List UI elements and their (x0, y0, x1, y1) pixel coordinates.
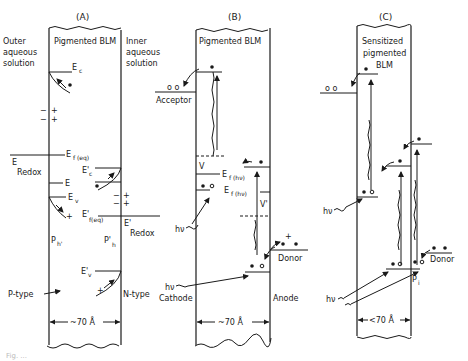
plus-charge: + (51, 115, 58, 124)
n-type-label: N-type (123, 290, 150, 299)
e-mid-label: E (65, 179, 70, 188)
donor-dot (432, 246, 436, 250)
electron-hop-arrow (404, 141, 414, 149)
arrowhead (264, 320, 269, 325)
plus-charge: + (51, 106, 58, 115)
membrane-title: Pigmented BLM (199, 37, 261, 46)
panel-a-label: (A) (76, 12, 89, 22)
donor-label: Donor (430, 255, 455, 264)
photon-wave (334, 207, 346, 211)
electron-dot (250, 264, 254, 268)
hole-plus: + (97, 286, 104, 295)
membrane-title: Pigmented BLM (54, 37, 116, 46)
ev-label: E (68, 193, 73, 202)
hole-circle (260, 264, 264, 268)
e-redox-prime-label: E' (124, 219, 131, 228)
donor-transfer-arrow (422, 250, 430, 258)
electron-dot (398, 159, 402, 163)
e-redox-prime-sub: Redox (130, 229, 155, 238)
hole-arrow-right (104, 280, 114, 288)
ev-sub: v (75, 197, 79, 204)
electron-dot (210, 65, 214, 69)
ef-hv-sub: f (hν) (229, 174, 245, 181)
light-label: hν (326, 295, 336, 304)
anode-label: Anode (273, 294, 299, 303)
v-prime-label: V' (260, 200, 268, 209)
ef-eq-sub: f (eq) (73, 154, 89, 162)
valence-bend (49, 197, 66, 218)
ev-prime-sub: v (88, 271, 92, 278)
arrowhead (358, 318, 363, 323)
light-label: hν (175, 225, 185, 234)
donor-label: Donor (278, 254, 303, 263)
arrowhead (50, 320, 55, 325)
donor-plus: + (285, 232, 292, 241)
ph-label: P (51, 236, 56, 245)
wavy-top (196, 29, 268, 32)
ef-hv-label: E (224, 186, 229, 195)
ph-prime-label: P' (104, 236, 111, 245)
ef-eq-label: E (66, 150, 71, 159)
light-label: hν (165, 283, 175, 292)
figure-caption: Fig. ... (6, 352, 27, 360)
donor-dot (281, 242, 285, 246)
wavy-top (49, 27, 121, 30)
acceptor-holes: o o (167, 83, 179, 92)
panel-b: (B) Pigmented BLM o o Acceptor V E f (hν… (155, 12, 308, 347)
thickness-label: ~70 Å (218, 316, 243, 327)
cathode-label: Cathode (159, 294, 193, 303)
thickness-label: <70 Å (369, 314, 394, 325)
photon-wave (338, 298, 344, 300)
outer-solution-line3: solution (3, 59, 35, 68)
outer-solution-line2: aqueous (3, 48, 37, 57)
arrowhead (405, 318, 410, 323)
panel-b-label: (B) (228, 12, 241, 22)
wavy-bottom (357, 336, 411, 339)
inner-solution-line3: solution (126, 59, 158, 68)
wavy-relaxation (398, 190, 400, 250)
wavy-top (357, 25, 411, 28)
band-bend (49, 72, 70, 93)
donor-dot (443, 246, 447, 250)
acceptor-holes: o o (325, 84, 337, 93)
pi-label: P (412, 275, 417, 284)
wavy-relaxation (414, 180, 416, 240)
hole-circle (420, 260, 424, 264)
minus-charge: − (40, 115, 47, 124)
thickness-label: ~70 Å (70, 316, 95, 327)
photon-wave (345, 304, 351, 306)
membrane-title-line2: pigmented (363, 49, 406, 58)
outer-solution-line1: Outer (3, 37, 26, 46)
ef-hv-label: E (222, 170, 227, 179)
ec-sub: c (79, 67, 82, 74)
band-bend-right (98, 168, 121, 190)
panel-c-label: (C) (379, 12, 392, 22)
electron-dot (391, 262, 395, 266)
electron-dot (201, 184, 205, 188)
ec-label: E (72, 63, 77, 72)
ec-prime-sub: c (89, 170, 92, 177)
photon-arrow (188, 276, 248, 286)
electron-transfer-arrow (352, 73, 360, 86)
electron-dot (417, 137, 421, 141)
donor-dot (294, 242, 298, 246)
wavy-relaxation (254, 220, 256, 250)
photon-arrow (346, 199, 362, 207)
minus-charge: − (113, 199, 120, 208)
wavy-relaxation (212, 72, 214, 156)
e-redox-sub: Redox (17, 168, 42, 177)
electron-dot (95, 184, 99, 188)
membrane-title-line3: BLM (376, 61, 393, 70)
ef-hv-sub: f (hν) (231, 190, 247, 197)
arrowhead (197, 320, 202, 325)
electron-arrow (57, 79, 66, 88)
panel-a: (A) Pigmented BLM Outer aqueous solution… (3, 12, 160, 348)
electron-dot (362, 190, 366, 194)
hole-plus: + (66, 212, 73, 221)
wavy-bottom (195, 334, 271, 347)
ph-sub: h' (57, 240, 63, 247)
wavy-relaxation (368, 120, 370, 180)
e-redox-label: E (12, 158, 17, 167)
panel-c: (C) Sensitized pigmented BLM o o hν (320, 12, 455, 339)
electron-dot (413, 260, 417, 264)
